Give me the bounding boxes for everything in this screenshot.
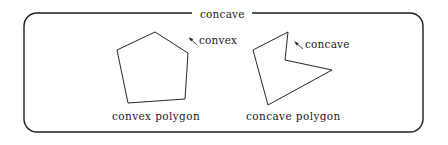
concave-polygon-caption: concave polygon bbox=[246, 111, 341, 122]
polygon-figure: concave convex concave convex polygon co… bbox=[0, 0, 448, 145]
concave-vertex-label: concave bbox=[305, 39, 350, 50]
convex-polygon-caption: convex polygon bbox=[112, 111, 200, 122]
figure-drawing-canvas bbox=[0, 0, 448, 145]
concave-pointer-arrow bbox=[294, 41, 302, 48]
frame-path bbox=[24, 13, 423, 132]
convex-polygon-shape bbox=[117, 32, 188, 103]
convex-vertex-label: convex bbox=[199, 35, 237, 46]
convex-pointer-arrow bbox=[189, 37, 197, 44]
top-concave-label: concave bbox=[196, 9, 249, 20]
